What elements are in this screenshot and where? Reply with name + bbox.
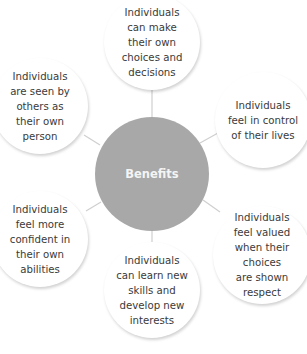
center-node-benefits: Benefits	[95, 117, 209, 231]
node-label: Individuals can make their own choices a…	[122, 5, 183, 80]
node-label: Individuals feel more confident in their…	[10, 202, 70, 277]
node-bottom: Individuals can learn new skills and dev…	[104, 242, 200, 338]
connector-lower-left	[86, 202, 101, 211]
node-label: Individuals feel in control of their liv…	[228, 98, 298, 143]
connector-lower-right	[203, 200, 220, 212]
node-lower-right: Individuals feel valued when their choic…	[213, 206, 307, 304]
node-label: Individuals can learn new skills and dev…	[116, 253, 188, 328]
node-label: Individuals feel valued when their choic…	[219, 210, 305, 300]
connector-upper-right	[200, 133, 218, 143]
node-upper-right: Individuals feel in control of their liv…	[215, 72, 307, 168]
connector-upper-left	[84, 135, 100, 145]
node-label: Individuals are seen by others as their …	[10, 69, 70, 144]
center-label: Benefits	[125, 167, 178, 181]
